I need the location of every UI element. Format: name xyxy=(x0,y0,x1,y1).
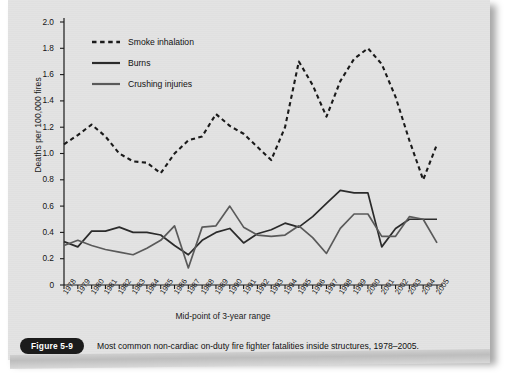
x-axis-label: Mid-point of 3-year range xyxy=(8,311,438,321)
y-tick-label: 0.4 xyxy=(24,227,54,237)
y-tick-label: 1.4 xyxy=(24,95,54,105)
figure-caption-text: Most common non-cardiac on-duty fire fig… xyxy=(97,341,419,351)
y-tick-label: 1.8 xyxy=(24,43,54,53)
y-tick-label: 0.6 xyxy=(24,201,54,211)
y-tick-label: 2.0 xyxy=(24,17,54,27)
series-line-2 xyxy=(64,206,437,268)
legend-label-2: Crushing injuries xyxy=(128,79,192,89)
y-tick-label: 1.2 xyxy=(24,122,54,132)
y-tick-label: 0.8 xyxy=(24,174,54,184)
y-tick-label: 1.6 xyxy=(24,69,54,79)
series-line-1 xyxy=(64,190,437,254)
legend-label-0: Smoke inhalation xyxy=(128,37,194,47)
y-tick-label: 0 xyxy=(24,280,54,290)
line-chart: Deaths per 100,000 fires Mid-point of 3-… xyxy=(8,0,490,330)
legend-label-1: Burns xyxy=(128,58,150,68)
figure-page: Deaths per 100,000 fires Mid-point of 3-… xyxy=(0,0,506,391)
series-line-0 xyxy=(64,48,437,180)
figure-number-badge: Figure 5-9 xyxy=(20,338,84,354)
y-tick-label: 1.0 xyxy=(24,148,54,158)
y-tick-label: 0.2 xyxy=(24,253,54,263)
figure-caption: Figure 5-9 Most common non-cardiac on-du… xyxy=(8,334,490,358)
